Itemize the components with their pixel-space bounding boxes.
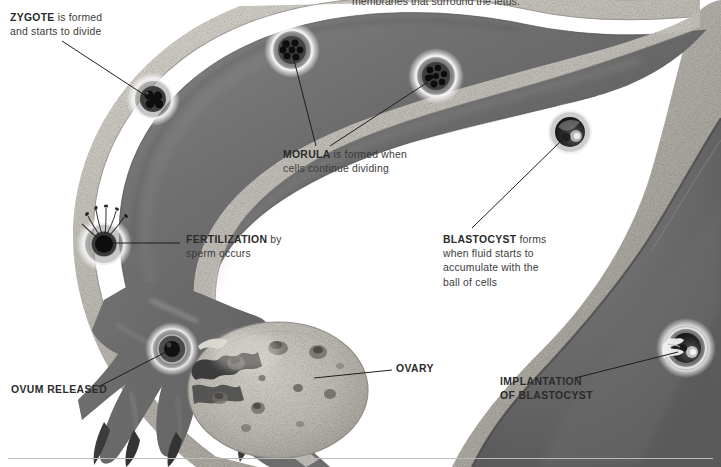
stage-ovum-released xyxy=(145,322,199,376)
figure-canvas: membranes that surround the fetus. ZYGOT… xyxy=(0,0,721,467)
stage-zygote xyxy=(126,72,180,126)
stage-implantation xyxy=(656,318,716,378)
stage-morula-late xyxy=(408,48,464,104)
footer-rule xyxy=(8,458,713,459)
annotation-implantation-line1: IMPLANTATION xyxy=(500,375,593,389)
anatomy-illustration xyxy=(0,0,721,467)
annotation-morula: MORULA is formed when cells continue div… xyxy=(283,148,407,176)
annotation-blastocyst: BLASTOCYST forms when fluid starts to ac… xyxy=(443,233,546,290)
annotation-blastocyst-keyword: BLASTOCYST xyxy=(443,234,516,245)
annotation-morula-line1: MORULA is formed when xyxy=(283,148,407,162)
annotation-zygote-keyword: ZYGOTE xyxy=(10,12,55,23)
annotation-ovary-label: OVARY xyxy=(396,362,434,376)
annotation-implantation: IMPLANTATION OF BLASTOCYST xyxy=(500,375,593,403)
annotation-morula-line2: cells continue dividing xyxy=(283,162,407,176)
annotation-ovary: OVARY xyxy=(396,362,434,376)
annotation-blastocyst-line4: ball of cells xyxy=(443,276,546,290)
annotation-fertilization-line2: sperm occurs xyxy=(186,247,282,261)
leader-zygote xyxy=(62,41,146,96)
clipped-header-text: membranes that surround the fetus. xyxy=(352,0,520,8)
annotation-blastocyst-line3: accumulate with the xyxy=(443,261,546,275)
annotation-zygote: ZYGOTE is formed and starts to divide xyxy=(10,11,102,39)
ovary xyxy=(188,322,368,458)
annotation-blastocyst-line1: BLASTOCYST forms xyxy=(443,233,546,247)
annotation-fertilization: FERTILIZATION by sperm occurs xyxy=(186,233,282,261)
annotation-morula-keyword: MORULA xyxy=(283,149,330,160)
annotation-implantation-line2: OF BLASTOCYST xyxy=(500,389,593,403)
annotation-fertilization-line1: FERTILIZATION by xyxy=(186,233,282,247)
leader-blastocyst xyxy=(472,140,562,228)
annotation-zygote-line2: and starts to divide xyxy=(10,25,102,39)
annotation-fertilization-keyword: FERTILIZATION xyxy=(186,234,267,245)
annotation-zygote-line1: ZYGOTE is formed xyxy=(10,11,102,25)
annotation-blastocyst-line2: when fluid starts to xyxy=(443,247,546,261)
annotation-ovum-released: OVUM RELEASED xyxy=(11,383,107,397)
annotation-ovum-released-label: OVUM RELEASED xyxy=(11,383,107,397)
stage-morula-early xyxy=(264,22,320,78)
